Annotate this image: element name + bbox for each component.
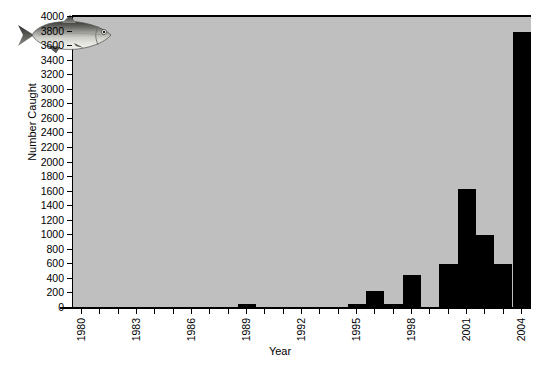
x-axis-tick bbox=[319, 308, 320, 314]
y-axis-tick-label: 2000 bbox=[18, 157, 64, 167]
y-axis-tick-label: 800 bbox=[18, 244, 64, 254]
y-axis-tick bbox=[67, 45, 72, 46]
x-axis-line bbox=[60, 307, 531, 309]
x-axis-tick bbox=[466, 308, 467, 314]
chart-figure: 0200400600800100012001400160018002000220… bbox=[0, 0, 560, 367]
y-axis-tick bbox=[67, 263, 72, 264]
y-axis-tick bbox=[67, 249, 72, 250]
y-axis-tick-labels: 0200400600800100012001400160018002000220… bbox=[18, 0, 64, 367]
x-axis-tick-label: 1986 bbox=[185, 318, 197, 341]
x-axis-tick-label: 1998 bbox=[405, 318, 417, 341]
x-axis-tick bbox=[118, 308, 119, 314]
y-axis-tick bbox=[67, 147, 72, 148]
bar-series bbox=[73, 17, 531, 308]
bar bbox=[494, 264, 512, 308]
y-axis-tick-label: 600 bbox=[18, 258, 64, 268]
y-axis-tick bbox=[67, 31, 72, 32]
y-axis-tick-label: 3200 bbox=[18, 69, 64, 79]
y-axis-tick bbox=[67, 16, 72, 17]
x-axis-tick bbox=[503, 308, 504, 314]
x-axis-tick bbox=[301, 308, 302, 314]
y-axis-tick-label: 3600 bbox=[18, 40, 64, 50]
x-axis-tick bbox=[228, 308, 229, 314]
x-axis-tick-label: 2001 bbox=[460, 318, 472, 341]
y-axis-tick bbox=[67, 176, 72, 177]
x-axis-tick-label: 1983 bbox=[130, 318, 142, 341]
x-axis-tick bbox=[246, 308, 247, 314]
bar bbox=[458, 189, 476, 308]
x-axis-tick-label: 2004 bbox=[515, 318, 527, 341]
x-axis-title: Year bbox=[0, 345, 560, 357]
y-axis-tick-label: 400 bbox=[18, 273, 64, 283]
y-axis-tick bbox=[67, 74, 72, 75]
x-axis-tick bbox=[429, 308, 430, 314]
x-axis-tick-label: 1980 bbox=[75, 318, 87, 341]
x-axis-tick bbox=[283, 308, 284, 314]
x-axis-tick bbox=[393, 308, 394, 314]
x-axis-tick bbox=[81, 308, 82, 314]
bar bbox=[403, 275, 421, 308]
y-axis-tick-label: 1200 bbox=[18, 215, 64, 225]
y-axis-tick-label: 3400 bbox=[18, 55, 64, 65]
x-axis-tick bbox=[191, 308, 192, 314]
y-axis-tick-label: 1400 bbox=[18, 200, 64, 210]
y-axis-tick-label: 2400 bbox=[18, 127, 64, 137]
x-axis-tick-label: 1992 bbox=[295, 318, 307, 341]
bar bbox=[513, 32, 531, 308]
x-axis-tick bbox=[484, 308, 485, 314]
y-axis-tick bbox=[67, 103, 72, 104]
x-axis-tick bbox=[338, 308, 339, 314]
x-axis-tick bbox=[264, 308, 265, 314]
y-axis-tick-label: 2800 bbox=[18, 98, 64, 108]
x-axis-tick bbox=[136, 308, 137, 314]
y-axis-tick-label: 2200 bbox=[18, 142, 64, 152]
y-axis-tick bbox=[67, 118, 72, 119]
x-axis-tick bbox=[154, 308, 155, 314]
y-axis-tick-label: 1800 bbox=[18, 171, 64, 181]
y-axis-tick bbox=[67, 278, 72, 279]
y-axis-tick bbox=[67, 307, 72, 308]
y-axis-title: Number Caught bbox=[26, 42, 38, 202]
x-axis-tick bbox=[411, 308, 412, 314]
y-axis-tick bbox=[67, 220, 72, 221]
y-axis-tick-label: 3800 bbox=[18, 26, 64, 36]
x-axis-tick bbox=[99, 308, 100, 314]
plot-area bbox=[72, 16, 531, 308]
x-axis-tick bbox=[521, 308, 522, 314]
y-axis-tick-label: 2600 bbox=[18, 113, 64, 123]
y-axis-tick bbox=[67, 191, 72, 192]
bar bbox=[439, 264, 457, 308]
y-axis-tick-label: 1600 bbox=[18, 186, 64, 196]
y-axis-tick bbox=[67, 162, 72, 163]
y-axis-tick bbox=[67, 89, 72, 90]
y-axis-tick bbox=[67, 292, 72, 293]
y-axis-tick bbox=[67, 60, 72, 61]
x-axis-tick bbox=[209, 308, 210, 314]
x-axis-tick-label: 1989 bbox=[240, 318, 252, 341]
y-axis-tick bbox=[67, 234, 72, 235]
bar bbox=[476, 235, 494, 308]
x-axis-tick-label: 1995 bbox=[350, 318, 362, 341]
x-axis-tick bbox=[448, 308, 449, 314]
x-axis-tick bbox=[356, 308, 357, 314]
y-axis-tick-label: 1000 bbox=[18, 229, 64, 239]
y-axis-tick-label: 0 bbox=[18, 302, 64, 312]
y-axis-tick bbox=[67, 132, 72, 133]
y-axis-tick-label: 4000 bbox=[18, 11, 64, 21]
y-axis-tick-label: 3000 bbox=[18, 84, 64, 94]
x-axis-tick bbox=[173, 308, 174, 314]
x-axis-tick bbox=[374, 308, 375, 314]
y-axis-tick-label: 200 bbox=[18, 287, 64, 297]
y-axis-tick bbox=[67, 205, 72, 206]
bar bbox=[366, 291, 384, 308]
